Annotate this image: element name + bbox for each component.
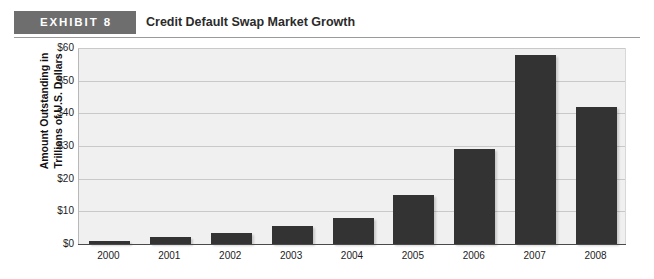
y-axis-tick-labels: $0$10$20$30$40$50$60 [24,0,74,279]
y-axis-tick-label: $60 [30,43,74,53]
x-axis-tick-label: 2007 [504,249,565,263]
x-axis-tick-label: 2002 [200,249,261,263]
x-axis-tick-label: 2000 [78,249,139,263]
plot-area [78,48,626,244]
x-axis-tick-labels: 200020012002200320042005200620072008 [78,249,626,265]
y-axis-tick-label: $40 [30,108,74,118]
x-axis-tick-label: 2003 [261,249,322,263]
bar-chart: Amount Outstanding in Trillions of U.S. … [0,0,654,279]
bar [576,107,617,244]
y-axis-tick-label: $50 [30,76,74,86]
bar [393,195,434,244]
x-axis-tick-label: 2006 [443,249,504,263]
bar [454,149,495,244]
y-axis-tick-label: $0 [30,239,74,249]
exhibit-page: EXHIBIT 8 Credit Default Swap Market Gro… [0,0,654,279]
y-axis-tick-label: $20 [30,174,74,184]
bar [272,226,313,244]
x-axis-tick-label: 2001 [139,249,200,263]
x-axis-line [78,244,626,245]
x-axis-tick-label: 2005 [382,249,443,263]
plot-inner [79,49,625,244]
y-axis-tick-label: $10 [30,206,74,216]
gridline [79,48,625,49]
x-axis-tick-label: 2004 [322,249,383,263]
bar [333,218,374,244]
bar [211,233,252,244]
y-axis-tick-label: $30 [30,141,74,151]
x-axis-tick-label: 2008 [565,249,626,263]
bar [515,55,556,244]
